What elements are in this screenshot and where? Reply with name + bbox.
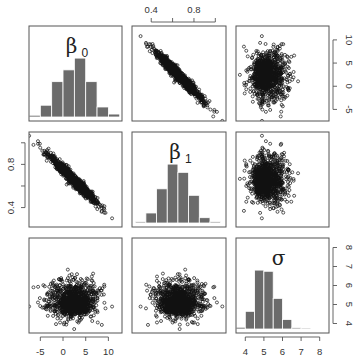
tick-label: 7 (344, 264, 355, 269)
histogram-bar (210, 222, 221, 223)
histogram-bar (178, 172, 189, 223)
tick-label: 5 (83, 346, 88, 357)
histogram-bar (283, 320, 292, 329)
tick-label: 6 (280, 346, 285, 357)
tick-label: 0.8 (187, 4, 200, 15)
scatter-panel-beta1-vs-beta0 (28, 132, 122, 227)
histogram-bar (301, 328, 310, 329)
tick-label: 4 (243, 346, 248, 357)
histogram-bar (292, 328, 301, 329)
tick-label: 0.4 (5, 201, 16, 214)
histogram-bar (273, 298, 282, 329)
tick-label: 10 (344, 35, 355, 46)
panel-title: σ (272, 246, 286, 270)
tick-label: 8 (317, 346, 322, 357)
histogram-panel-beta0: β0 (29, 26, 122, 121)
histogram-bar (52, 82, 63, 117)
panel-title-subscript: 1 (185, 152, 192, 166)
histogram-bar (236, 327, 245, 329)
scatter-panel-beta0-vs-sigma (236, 26, 329, 122)
panel-title-subscript: 0 (82, 46, 89, 60)
histogram-bar (255, 270, 264, 329)
histogram-bar (264, 271, 273, 329)
tick-label: 0 (344, 84, 355, 89)
histogram-bar (189, 195, 200, 223)
tick-label: 7 (298, 346, 303, 357)
tick-label: 5 (344, 60, 355, 65)
scatter-panel-sigma-vs-beta0 (28, 238, 122, 333)
tick-label: 5 (344, 302, 355, 307)
histogram-bar (199, 218, 210, 223)
pairs-plot: β0β1σ0.40.80.40.8-5051045678-5051045678 (0, 0, 355, 361)
scatter-panel-beta0-vs-beta1 (132, 26, 226, 122)
scatter-panel-beta1-vs-sigma (236, 132, 329, 227)
histogram-bar (63, 70, 74, 117)
tick-label: -5 (36, 346, 44, 357)
histogram-bar (86, 82, 97, 117)
histogram-bar (167, 164, 178, 223)
histogram-panel-sigma: σ (236, 238, 329, 333)
panel-title: β (66, 34, 78, 58)
histogram-bar (135, 222, 146, 223)
histogram-panel-beta1: β1 (132, 132, 226, 227)
histogram-bar (40, 105, 51, 117)
histogram-bar (108, 114, 119, 117)
tick-label: 6 (344, 283, 355, 288)
tick-label: 5 (261, 346, 266, 357)
tick-label: 0 (60, 346, 65, 357)
histogram-bar (97, 107, 108, 117)
tick-label: 0.8 (5, 158, 16, 171)
tick-label: 0.4 (145, 4, 158, 15)
tick-label: -5 (344, 105, 355, 113)
scatter-panel-sigma-vs-beta1 (132, 238, 226, 333)
panel-title: β (169, 140, 181, 164)
tick-label: 8 (344, 245, 355, 250)
tick-label: 4 (344, 321, 355, 326)
histogram-bar (29, 115, 40, 117)
histogram-bar (157, 189, 168, 223)
histogram-bar (245, 311, 254, 329)
histogram-bar (146, 213, 157, 223)
histogram-bar (74, 58, 85, 117)
tick-label: 10 (103, 346, 114, 357)
